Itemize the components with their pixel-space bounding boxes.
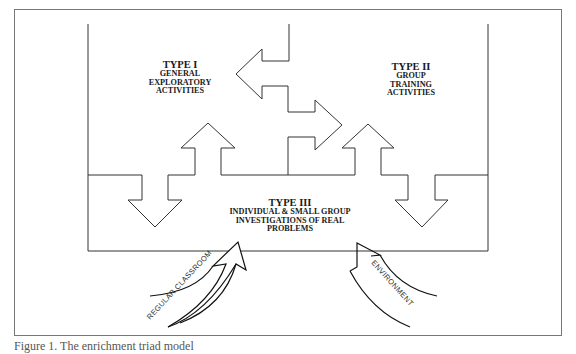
type-ii-label: TYPE II GROUP TRAINING ACTIVITIES [374,61,448,98]
type-i-label: TYPE I GENERAL EXPLORATORY ACTIVITIES [140,59,220,96]
regular-classroom-arrow: REGULAR CLASSROOM [145,242,246,327]
left-arrow-type-i [236,24,342,175]
type-iii-label: TYPE III INDIVIDUAL & SMALL GROUP INVEST… [212,197,368,234]
environment-arrow: ENVIRONMENT [350,243,437,327]
environment-label: ENVIRONMENT [370,258,416,308]
figure-caption: Figure 1. The enrichment triad model [14,339,194,354]
